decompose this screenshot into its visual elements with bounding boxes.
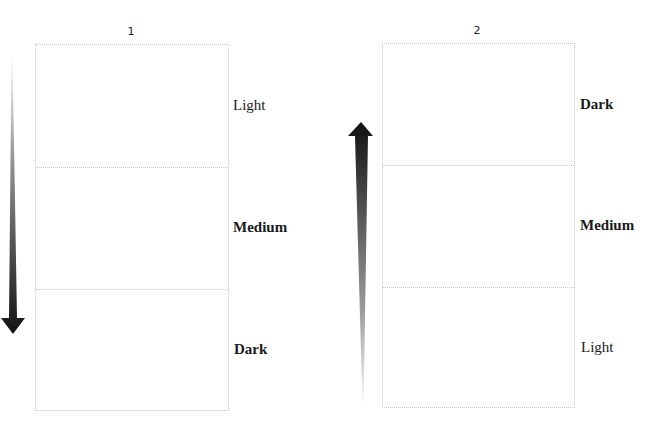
arrow-down-icon xyxy=(1,55,25,334)
column-2-stack xyxy=(382,43,575,408)
column-1-row-1 xyxy=(36,45,228,167)
column-1-label-dark: Dark xyxy=(234,341,267,358)
column-2-label-dark: Dark xyxy=(580,96,613,113)
column-2-row-1 xyxy=(383,44,574,165)
column-1-stack xyxy=(35,44,229,411)
column-2-label-light: Light xyxy=(581,339,614,356)
column-2-row-3 xyxy=(383,287,574,408)
column-1-label-medium: Medium xyxy=(233,219,287,236)
column-2-title: 2 xyxy=(457,24,497,37)
arrow-up-icon xyxy=(348,122,373,408)
column-1-row-2 xyxy=(36,167,228,289)
column-2-label-medium: Medium xyxy=(580,217,634,234)
column-1-row-3 xyxy=(36,289,228,411)
column-2-row-2 xyxy=(383,165,574,287)
column-1-label-light: Light xyxy=(233,97,266,114)
column-1-title: 1 xyxy=(111,25,151,38)
